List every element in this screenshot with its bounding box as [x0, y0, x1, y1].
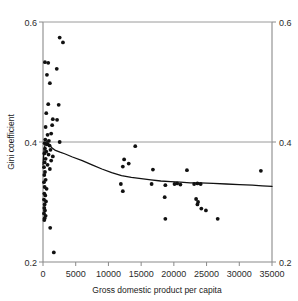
- y-tick-label-right: 0.6: [279, 18, 292, 28]
- trend-line-path: [43, 141, 272, 186]
- plot-axes: [43, 22, 272, 262]
- x-tick-label: 20000: [161, 269, 186, 279]
- data-point: [57, 103, 61, 107]
- data-point: [122, 158, 126, 162]
- data-point: [49, 132, 53, 136]
- data-point: [133, 144, 137, 148]
- data-point: [48, 226, 52, 230]
- data-point: [46, 163, 50, 167]
- scatter-plot-svg: 05000100001500020000250003000035000 0.20…: [0, 0, 298, 301]
- data-point: [46, 133, 50, 137]
- data-point: [42, 173, 46, 177]
- data-point: [121, 165, 125, 169]
- data-point: [42, 180, 46, 184]
- x-tick-labels: 05000100001500020000250003000035000: [40, 269, 284, 279]
- y-tick-label-right: 0.2: [279, 258, 292, 268]
- data-point: [46, 61, 50, 65]
- data-point: [48, 167, 52, 171]
- data-point: [47, 153, 51, 157]
- data-point: [55, 118, 59, 122]
- data-point: [58, 140, 62, 144]
- data-point: [179, 183, 183, 187]
- y-axis-title: Gini coefficient: [6, 114, 16, 170]
- data-point: [43, 194, 47, 198]
- data-point: [48, 81, 52, 85]
- data-point: [49, 159, 53, 163]
- data-point: [52, 251, 56, 255]
- data-point: [50, 123, 54, 127]
- data-point: [44, 111, 48, 115]
- data-point: [204, 209, 208, 213]
- data-point: [46, 102, 50, 106]
- data-point: [42, 218, 46, 222]
- y-tick-marks-right: [272, 22, 276, 262]
- data-point: [45, 187, 49, 191]
- data-point: [43, 60, 47, 64]
- data-point: [163, 217, 167, 221]
- data-point: [43, 203, 47, 207]
- y-tick-label-left: 0.2: [24, 258, 37, 268]
- trend-line: [43, 141, 272, 186]
- data-point: [51, 117, 55, 121]
- data-point: [151, 168, 155, 172]
- data-point: [199, 207, 203, 211]
- x-tick-label: 5000: [66, 269, 86, 279]
- y-tick-labels-left: 0.20.40.6: [24, 18, 37, 268]
- x-tick-label: 15000: [129, 269, 154, 279]
- data-point: [163, 195, 167, 199]
- data-point: [196, 203, 200, 207]
- data-point: [150, 182, 154, 186]
- x-tick-label: 10000: [96, 269, 121, 279]
- x-tick-label: 30000: [227, 269, 252, 279]
- y-tick-label-left: 0.6: [24, 18, 37, 28]
- x-tick-marks: [43, 262, 272, 266]
- data-point: [119, 182, 123, 186]
- data-point: [259, 169, 263, 173]
- y-tick-labels-right: 0.20.40.6: [279, 18, 292, 268]
- x-tick-label: 0: [40, 269, 45, 279]
- data-point: [163, 183, 167, 187]
- scatter-points: [42, 36, 263, 255]
- data-point: [42, 165, 46, 169]
- data-point: [61, 41, 65, 45]
- y-tick-label-left: 0.4: [24, 138, 37, 148]
- x-axis-title: Gross domestic product per capita: [92, 285, 222, 295]
- data-point: [127, 162, 131, 166]
- x-tick-label: 25000: [194, 269, 219, 279]
- y-tick-marks-left: [39, 22, 43, 262]
- x-tick-label: 35000: [259, 269, 284, 279]
- data-point: [44, 157, 48, 161]
- data-point: [185, 168, 189, 172]
- data-point: [55, 67, 59, 71]
- data-point: [44, 125, 48, 129]
- data-point: [58, 36, 62, 40]
- data-point: [45, 73, 49, 77]
- data-point: [121, 189, 125, 193]
- chart-figure: 05000100001500020000250003000035000 0.20…: [0, 0, 298, 301]
- y-tick-label-right: 0.4: [279, 138, 292, 148]
- data-point: [216, 217, 220, 221]
- data-point: [51, 155, 55, 159]
